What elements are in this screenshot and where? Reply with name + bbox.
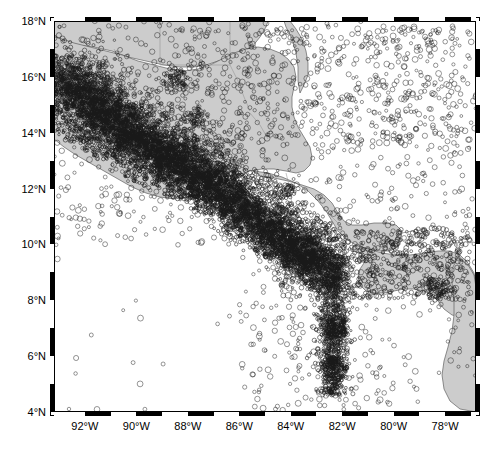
lon-tick-86: 86°W	[226, 420, 253, 432]
lon-tick-88: 88°W	[174, 420, 201, 432]
lon-tick-92: 92°W	[71, 420, 98, 432]
lon-tick-90: 90°W	[123, 420, 150, 432]
lat-tick-6: 6°N	[28, 350, 46, 362]
frame-band-bottom	[54, 412, 476, 416]
lat-tick-14: 14°N	[21, 127, 46, 139]
lon-tick-82: 82°W	[329, 420, 356, 432]
lon-tick-78: 78°W	[432, 420, 459, 432]
lat-tick-8: 8°N	[28, 294, 46, 306]
lon-tick-80: 80°W	[380, 420, 407, 432]
frame-band-top	[54, 17, 476, 21]
lat-tick-12: 12°N	[21, 183, 46, 195]
lat-tick-16: 16°N	[21, 71, 46, 83]
frame-band-right	[476, 21, 480, 412]
map-frame-outer	[50, 17, 480, 416]
frame-band-left	[50, 21, 54, 412]
lon-tick-84: 84°W	[277, 420, 304, 432]
lat-tick-4: 4°N	[28, 406, 46, 418]
lat-tick-18: 18°N	[21, 15, 46, 27]
seismicity-map-figure: 4°N6°N8°N10°N12°N14°N16°N18°N 92°W90°W88…	[0, 0, 504, 454]
lat-tick-10: 10°N	[21, 238, 46, 250]
